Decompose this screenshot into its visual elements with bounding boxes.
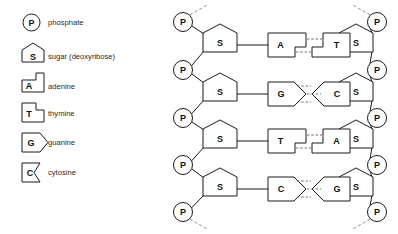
phosphate-label: P bbox=[374, 65, 380, 75]
legend-item-phosphate[interactable]: Pphosphate bbox=[23, 14, 83, 31]
backbone-left-1-upper bbox=[191, 73, 205, 83]
tail-bottom-right bbox=[353, 219, 370, 229]
base-label: A bbox=[333, 136, 340, 146]
backbone-left-1-lower bbox=[191, 100, 205, 115]
base-left-3[interactable]: C bbox=[268, 177, 306, 201]
phosphate-right-1[interactable]: P bbox=[368, 61, 387, 80]
legend-symbol-G: G bbox=[27, 138, 34, 148]
backbone-left-3-upper bbox=[191, 168, 205, 178]
base-outline bbox=[268, 33, 306, 57]
dna-ladder: SSSSSSSSPPPPPPPPPPATGCTACG bbox=[174, 5, 387, 229]
base-label: G bbox=[277, 89, 284, 99]
phosphate-left-3[interactable]: P bbox=[174, 156, 193, 175]
backbone-left-3-lower bbox=[191, 195, 205, 209]
backbone-left-2-upper bbox=[191, 121, 205, 130]
dna-diagram-svg: PphosphateSsugar (deoxyribose)AadenineTt… bbox=[0, 0, 398, 234]
sugar-left-1[interactable]: S bbox=[203, 73, 237, 101]
sugar-label: S bbox=[217, 134, 223, 144]
sugar-label: S bbox=[353, 38, 359, 48]
tail-top-left bbox=[190, 5, 207, 15]
phosphate-label: P bbox=[180, 113, 186, 123]
backbone-left-0-upper bbox=[191, 25, 205, 34]
legend-symbol-A: A bbox=[26, 81, 33, 91]
legend: PphosphateSsugar (deoxyribose)AadenineTt… bbox=[22, 14, 116, 182]
base-label: G bbox=[333, 184, 340, 194]
phosphate-right-2[interactable]: P bbox=[368, 109, 387, 128]
phosphate-label: P bbox=[374, 17, 380, 27]
base-label: T bbox=[278, 136, 284, 146]
base-outline bbox=[268, 82, 306, 106]
legend-symbol-C: C bbox=[27, 168, 34, 178]
phosphate-left-0[interactable]: P bbox=[174, 13, 193, 32]
base-outline bbox=[268, 177, 306, 201]
legend-symbol-P: P bbox=[28, 18, 34, 28]
legend-symbol-T: T bbox=[26, 109, 32, 119]
base-left-2[interactable]: T bbox=[268, 129, 306, 153]
phosphate-label: P bbox=[180, 160, 186, 170]
legend-label-guanine: guanine bbox=[48, 138, 75, 147]
legend-item-sugar[interactable]: Ssugar (deoxyribose) bbox=[22, 43, 116, 62]
phosphate-left-4[interactable]: P bbox=[174, 203, 193, 222]
base-label: C bbox=[278, 184, 285, 194]
base-right-2[interactable]: A bbox=[312, 129, 350, 153]
base-pair-1: GC bbox=[268, 82, 350, 106]
sugar-label: S bbox=[217, 182, 223, 192]
phosphate-left-1[interactable]: P bbox=[174, 61, 193, 80]
phosphate-left-2[interactable]: P bbox=[174, 109, 193, 128]
legend-label-sugar: sugar (deoxyribose) bbox=[48, 52, 116, 61]
legend-item-thymine[interactable]: Tthymine bbox=[22, 103, 75, 122]
legend-label-cytosine: cytosine bbox=[48, 168, 76, 177]
legend-label-adenine: adenine bbox=[48, 82, 75, 91]
sugar-label: S bbox=[217, 87, 223, 97]
legend-item-guanine[interactable]: Gguanine bbox=[22, 133, 75, 152]
base-label: A bbox=[277, 40, 284, 50]
base-pair-2: TA bbox=[268, 129, 350, 153]
sugar-left-2[interactable]: S bbox=[203, 120, 237, 148]
phosphate-label: P bbox=[180, 207, 186, 217]
phosphate-label: P bbox=[374, 160, 380, 170]
legend-symbol-S: S bbox=[30, 52, 36, 62]
base-pairs: ATGCTACG bbox=[268, 33, 350, 201]
sugar-label: S bbox=[353, 87, 359, 97]
legend-label-thymine: thymine bbox=[48, 109, 75, 118]
base-label: T bbox=[334, 40, 340, 50]
phosphate-right-3[interactable]: P bbox=[368, 156, 387, 175]
phosphate-right-4[interactable]: P bbox=[368, 203, 387, 222]
base-outline bbox=[312, 129, 350, 153]
phosphate-label: P bbox=[374, 207, 380, 217]
legend-item-cytosine[interactable]: Ccytosine bbox=[22, 163, 76, 182]
phosphate-right-0[interactable]: P bbox=[368, 13, 387, 32]
tail-bottom-left bbox=[190, 219, 207, 229]
legend-shape-guanine bbox=[22, 133, 48, 152]
tail-top-right bbox=[353, 5, 370, 15]
sugar-label: S bbox=[353, 134, 359, 144]
base-label: C bbox=[334, 89, 341, 99]
sugar-left-0[interactable]: S bbox=[203, 24, 237, 52]
base-right-0[interactable]: T bbox=[312, 33, 350, 57]
base-outline bbox=[312, 33, 350, 57]
guanine-outline bbox=[22, 133, 48, 152]
dna-diagram-canvas: PphosphateSsugar (deoxyribose)AadenineTt… bbox=[0, 0, 398, 234]
base-left-0[interactable]: A bbox=[268, 33, 306, 57]
base-pair-3: CG bbox=[268, 177, 350, 201]
sugar-label: S bbox=[353, 182, 359, 192]
phosphate-label: P bbox=[180, 17, 186, 27]
backbone-left-0-lower bbox=[191, 51, 205, 67]
legend-label-phosphate: phosphate bbox=[48, 18, 83, 27]
base-left-1[interactable]: G bbox=[268, 82, 306, 106]
sugar-left-3[interactable]: S bbox=[203, 168, 237, 196]
sugar-label: S bbox=[217, 38, 223, 48]
base-outline bbox=[268, 129, 306, 153]
phosphate-label: P bbox=[374, 113, 380, 123]
legend-item-adenine[interactable]: Aadenine bbox=[22, 73, 75, 92]
phosphate-label: P bbox=[180, 65, 186, 75]
backbone-left-2-lower bbox=[191, 147, 205, 162]
base-pair-0: AT bbox=[268, 33, 350, 57]
